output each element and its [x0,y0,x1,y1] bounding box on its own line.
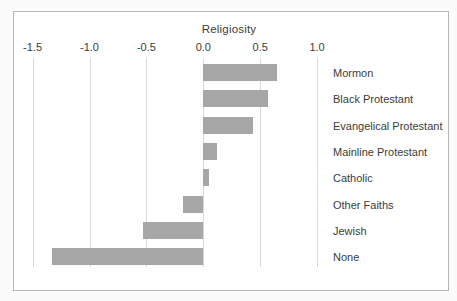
bar-none [52,248,203,265]
bar-jewish [143,222,203,239]
gridline [90,58,91,267]
category-label: Mormon [333,67,373,79]
gridline [33,58,34,267]
x-tick-label: 0.0 [183,41,223,53]
category-label: Catholic [333,172,373,184]
chart-panel: Religiosity -1.5-1.0-0.50.00.51.0 Mormon… [13,11,449,291]
category-label: Jewish [333,225,367,237]
bar-other-faiths [183,196,204,213]
x-tick-label: -1.5 [13,41,53,53]
gridline [317,58,318,267]
category-label: Black Protestant [333,93,413,105]
category-label: Other Faiths [333,199,394,211]
bar-black-protestant [203,90,268,107]
category-label: Evangelical Protestant [333,120,442,132]
bar-mainline-protestant [203,143,217,160]
category-label: None [333,251,359,263]
bar-evangelical-protestant [203,117,253,134]
x-tick-label: -1.0 [70,41,110,53]
chart-title: Religiosity [14,23,444,35]
bar-mormon [203,64,277,81]
category-label: Mainline Protestant [333,146,427,158]
bar-catholic [203,169,209,186]
x-tick-label: 0.5 [240,41,280,53]
x-tick-label: 1.0 [297,41,337,53]
x-tick-label: -0.5 [126,41,166,53]
